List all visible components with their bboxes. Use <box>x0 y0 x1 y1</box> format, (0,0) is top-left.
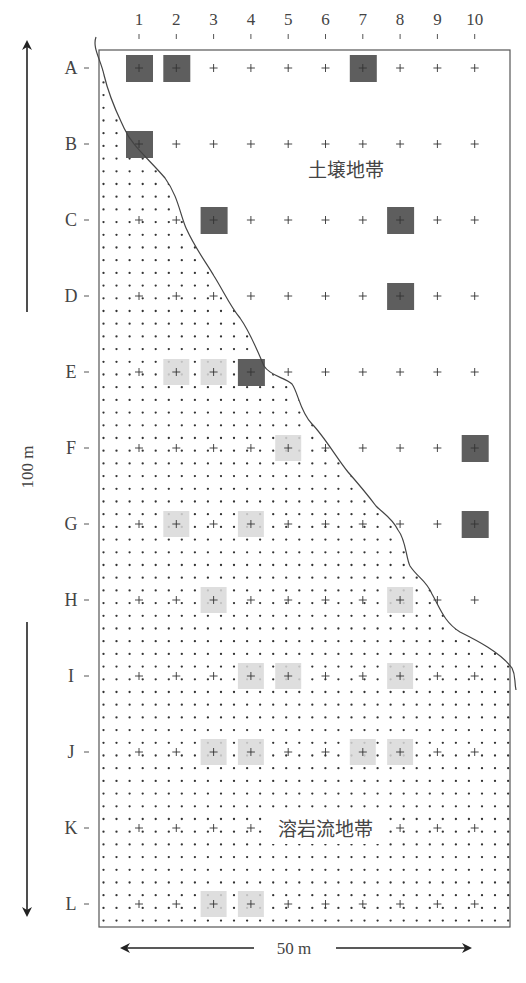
dark-square-E4 <box>238 359 265 386</box>
plus-marker-K2 <box>172 824 180 832</box>
plus-marker-G9 <box>433 520 441 528</box>
column-label-6: 6 <box>321 10 330 29</box>
plus-marker-L2 <box>172 900 180 908</box>
plus-marker-A4 <box>247 64 255 72</box>
plus-marker-K10 <box>471 824 479 832</box>
row-label-F: F <box>66 438 76 458</box>
column-label-2: 2 <box>172 10 181 29</box>
plus-marker-A9 <box>433 64 441 72</box>
lava-dot-pattern <box>102 56 509 922</box>
plus-marker-I3 <box>210 672 218 680</box>
plus-marker-I7 <box>359 672 367 680</box>
plus-marker-C10 <box>471 216 479 224</box>
plus-marker-B9 <box>433 140 441 148</box>
plus-marker-A5 <box>284 64 292 72</box>
dark-square-B1 <box>126 131 153 158</box>
plus-marker-D9 <box>433 292 441 300</box>
zone-boundary-line <box>95 37 516 690</box>
plus-marker-K1 <box>135 824 143 832</box>
plus-marker-H2 <box>172 596 180 604</box>
column-label-9: 9 <box>433 10 442 29</box>
dark-square-A2 <box>163 55 190 82</box>
dark-square-C8 <box>387 207 414 234</box>
plus-marker-F2 <box>172 444 180 452</box>
row-label-L: L <box>66 894 77 914</box>
plus-marker-D3 <box>210 292 218 300</box>
plus-marker-K3 <box>210 824 218 832</box>
plus-marker-D10 <box>471 292 479 300</box>
dark-square-D8 <box>387 283 414 310</box>
plus-marker-B8 <box>396 140 404 148</box>
plus-marker-A6 <box>322 64 330 72</box>
plus-marker-G3 <box>210 520 218 528</box>
dark-square-C3 <box>201 207 228 234</box>
plus-marker-G8 <box>396 520 404 528</box>
row-label-I: I <box>68 666 74 686</box>
sample-point-markers <box>135 64 479 908</box>
plus-marker-E8 <box>396 368 404 376</box>
plus-marker-B3 <box>210 140 218 148</box>
plus-marker-H6 <box>322 596 330 604</box>
plus-marker-I9 <box>433 672 441 680</box>
plus-marker-L5 <box>284 900 292 908</box>
plus-marker-A10 <box>471 64 479 72</box>
plus-marker-E10 <box>471 368 479 376</box>
plus-marker-J9 <box>433 748 441 756</box>
plus-marker-B5 <box>284 140 292 148</box>
plus-marker-J10 <box>471 748 479 756</box>
plus-marker-L6 <box>322 900 330 908</box>
plus-marker-C7 <box>359 216 367 224</box>
plus-marker-B10 <box>471 140 479 148</box>
plus-marker-C4 <box>247 216 255 224</box>
plus-marker-K8 <box>396 824 404 832</box>
dark-square-A1 <box>126 55 153 82</box>
plus-marker-F3 <box>210 444 218 452</box>
column-label-4: 4 <box>247 10 256 29</box>
plus-marker-C2 <box>172 216 180 224</box>
plus-marker-B2 <box>172 140 180 148</box>
plus-marker-F9 <box>433 444 441 452</box>
row-label-H: H <box>65 590 78 610</box>
plus-marker-H10 <box>471 596 479 604</box>
column-label-1: 1 <box>135 10 144 29</box>
row-label-D: D <box>65 286 78 306</box>
row-label-K: K <box>65 818 78 838</box>
plus-marker-I10 <box>471 672 479 680</box>
row-labels: ABCDEFGHIJKL <box>65 58 90 914</box>
column-label-3: 3 <box>209 10 218 29</box>
plus-marker-F8 <box>396 444 404 452</box>
column-labels: 12345678910 <box>135 10 483 39</box>
plus-marker-E9 <box>433 368 441 376</box>
row-label-J: J <box>67 742 74 762</box>
plus-marker-I6 <box>322 672 330 680</box>
plus-marker-C6 <box>322 216 330 224</box>
column-label-7: 7 <box>359 10 368 29</box>
dark-square-F10 <box>462 435 489 462</box>
plus-marker-B6 <box>322 140 330 148</box>
row-label-E: E <box>66 362 77 382</box>
row-label-C: C <box>65 210 77 230</box>
plus-marker-D7 <box>359 292 367 300</box>
soil-zone-label: 土壌地帯 <box>308 160 384 181</box>
column-label-8: 8 <box>396 10 405 29</box>
plus-marker-C9 <box>433 216 441 224</box>
plus-marker-L7 <box>359 900 367 908</box>
plus-marker-B7 <box>359 140 367 148</box>
plus-marker-E7 <box>359 368 367 376</box>
row-label-B: B <box>65 134 77 154</box>
dark-square-G10 <box>462 511 489 538</box>
plus-marker-L1 <box>135 900 143 908</box>
plus-marker-A8 <box>396 64 404 72</box>
plus-marker-L9 <box>433 900 441 908</box>
row-label-A: A <box>65 58 78 78</box>
plus-marker-D6 <box>322 292 330 300</box>
plus-marker-D4 <box>247 292 255 300</box>
plus-marker-L10 <box>471 900 479 908</box>
plus-marker-D2 <box>172 292 180 300</box>
plus-marker-B4 <box>247 140 255 148</box>
plus-marker-F7 <box>359 444 367 452</box>
plus-marker-E6 <box>322 368 330 376</box>
column-label-10: 10 <box>466 10 483 29</box>
plus-marker-D5 <box>284 292 292 300</box>
column-label-5: 5 <box>284 10 293 29</box>
